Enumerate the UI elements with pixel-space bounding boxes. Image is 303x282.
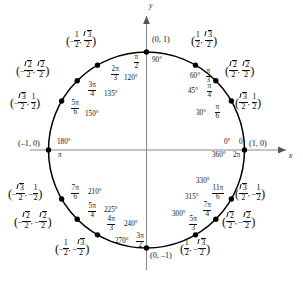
- fraction-3pi-4: 3π 4: [88, 82, 96, 98]
- radian-pi-over-2: π 2: [134, 54, 139, 70]
- coordinate-60deg: (12, 32): [191, 30, 217, 49]
- degree-120: 120°: [124, 75, 138, 82]
- paren-close: ): [36, 96, 40, 110]
- point-0deg: [242, 147, 247, 152]
- fraction-pi-2: π 2: [134, 54, 139, 70]
- fraction-sqrt2-2: 22: [229, 60, 237, 79]
- comma: ,: [31, 217, 33, 226]
- y-axis-arrow: [143, 16, 150, 24]
- comma: ,: [189, 244, 191, 253]
- sqrt-icon: 3: [19, 92, 26, 102]
- x-axis-label: x: [289, 152, 292, 160]
- paren-close: ): [85, 242, 89, 256]
- comma: ,: [27, 98, 29, 107]
- fraction-sqrt3-2: 32: [205, 30, 213, 49]
- comma: ,: [248, 98, 250, 107]
- coordinate-0-1: (0, 1): [152, 36, 170, 44]
- coordinate-120deg: (–12, 32): [66, 30, 96, 49]
- fraction-sqrt2-2: 22: [22, 211, 30, 230]
- coordinate-0-minus1: (0, –1): [150, 252, 172, 260]
- fraction-5pi-3: 5π 3: [189, 216, 197, 232]
- radian-pi: π: [58, 152, 62, 159]
- coordinate-150deg: (–32, 12): [10, 92, 40, 111]
- point-45deg: [213, 78, 218, 83]
- fraction-sqrt2-2: 22: [226, 211, 234, 230]
- degree-360: 360°: [212, 152, 226, 159]
- point-210deg: [59, 196, 64, 201]
- sqrt-icon: 3: [17, 183, 24, 193]
- degree-270: 270°: [115, 238, 129, 245]
- radian-0: 0: [239, 139, 243, 146]
- paren-close: ): [213, 34, 217, 48]
- paren-close: ): [206, 242, 210, 256]
- unit-circle-figure: x y (0, 1) (0, –1) (1, 0) (–1, 0) 0° 0 3…: [0, 0, 303, 282]
- paren-close: ): [45, 64, 49, 78]
- sqrt-icon: 2: [40, 211, 47, 221]
- x-axis-arrow: [278, 147, 286, 154]
- degree-150: 150°: [85, 111, 99, 118]
- point-135deg: [75, 78, 80, 83]
- degree-225: 225°: [104, 207, 118, 214]
- sqrt-icon: 2: [230, 60, 237, 70]
- radian-2pi: 2π: [233, 152, 240, 159]
- sqrt-icon: 3: [84, 30, 91, 40]
- fraction-sqrt2-2b: 22: [242, 60, 250, 79]
- paren-close: ): [92, 34, 96, 48]
- degree-30: 30°: [196, 110, 206, 117]
- sqrt-icon: 2: [242, 60, 249, 70]
- point-270deg: [144, 245, 149, 250]
- fraction-2pi-3: 2π 3: [111, 66, 119, 82]
- coordinate-45deg: (22, 22): [225, 60, 254, 79]
- sqrt-icon: 3: [198, 238, 205, 248]
- fraction-sqrt3-2: 32: [77, 238, 85, 257]
- radian-4pi-over-3: 4π 3: [107, 216, 115, 232]
- comma: ,: [25, 189, 27, 198]
- fraction-sqrt2-2: 22: [24, 60, 32, 79]
- y-axis-label: y: [149, 2, 152, 10]
- coordinate-135deg: (–22, 22): [16, 60, 49, 79]
- fraction-7pi-4: 7π 4: [203, 202, 211, 218]
- radian-pi-over-4: π 4: [207, 83, 212, 99]
- degree-180: 180°: [57, 139, 71, 146]
- paren-close: ): [251, 215, 255, 229]
- fraction-5pi-6: 5π 6: [71, 100, 79, 116]
- fraction-7pi-6: 7π 6: [71, 185, 79, 201]
- point-300deg: [193, 232, 198, 237]
- sqrt-icon: 3: [240, 183, 247, 193]
- paren-close: ): [38, 187, 42, 201]
- fraction-4pi-3: 4π 3: [107, 216, 115, 232]
- point-150deg: [59, 98, 64, 103]
- sqrt-icon: 3: [205, 30, 212, 40]
- comma: ,: [69, 244, 71, 253]
- coordinate-210deg: (–32, –12): [8, 183, 42, 202]
- coordinate-1-0: (1, 0): [249, 140, 267, 148]
- comma: ,: [238, 66, 240, 75]
- paren-close: ): [47, 215, 51, 229]
- point-180deg: [46, 147, 51, 152]
- paren-close: ): [250, 64, 254, 78]
- point-240deg: [95, 232, 100, 237]
- fraction-5pi-4: 5π 4: [88, 203, 96, 219]
- fraction-sqrt3-2: 32: [18, 92, 26, 111]
- fraction-pi-4: π 4: [207, 83, 212, 99]
- degree-60: 60°: [190, 73, 200, 80]
- paren-close: ): [261, 187, 265, 201]
- coordinate-225deg: (–22, –22): [14, 211, 52, 230]
- degree-240: 240°: [124, 221, 138, 228]
- sqrt-icon: 2: [37, 60, 44, 70]
- fraction-11pi-6: 11π 6: [212, 185, 224, 201]
- fraction-3pi-2: 3π 2: [136, 233, 144, 249]
- comma: ,: [235, 217, 237, 226]
- degree-210: 210°: [88, 189, 102, 196]
- sqrt-icon: 3: [77, 238, 84, 248]
- degree-135: 135°: [104, 91, 118, 98]
- radian-7pi-over-6: 7π 6: [71, 185, 79, 201]
- paren-close: ): [257, 96, 261, 110]
- radian-7pi-over-4: 7π 4: [203, 202, 211, 218]
- point-225deg: [75, 217, 80, 222]
- radian-3pi-over-4: 3π 4: [88, 82, 96, 98]
- fraction-sqrt3-2: 32: [16, 183, 24, 202]
- comma: ,: [33, 66, 35, 75]
- radian-11pi-over-6: 11π 6: [212, 185, 224, 201]
- point-120deg: [95, 62, 100, 67]
